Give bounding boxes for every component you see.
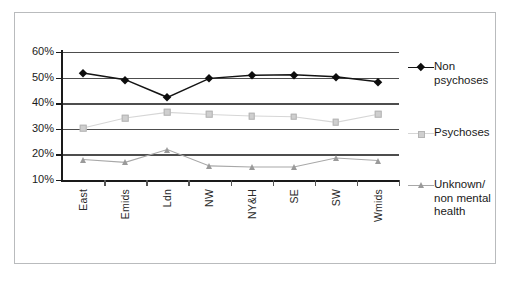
x-axis-tick-label-ny-h: NY&H <box>246 189 258 219</box>
data-point-triangle <box>80 157 86 163</box>
data-point-triangle <box>249 164 255 170</box>
x-axis-tick <box>273 180 274 186</box>
x-axis-tick-label-se: SE <box>288 189 300 203</box>
x-axis-tick-label-emids: Emids <box>119 189 131 219</box>
legend-label: Non psychoses <box>434 60 488 87</box>
x-axis-tick <box>357 180 358 186</box>
series-polylines <box>62 52 399 180</box>
y-axis-tick-label: 50% <box>2 71 54 83</box>
legend-item-non-psychoses[interactable]: Non psychoses <box>408 60 488 87</box>
plot-area <box>62 52 399 180</box>
x-axis-tick <box>231 180 232 186</box>
x-axis-tick-label-east: East <box>77 189 89 211</box>
x-axis-tick <box>315 180 316 186</box>
x-axis-tick-label-ldn: Ldn <box>161 189 173 207</box>
data-point-triangle <box>375 158 381 164</box>
chart-plot-wrapper: 60%50%40%30%20%10% EastEmidsLdnNWNY&HSES… <box>0 0 516 282</box>
data-point-square <box>80 125 87 132</box>
x-axis-tick-label-nw: NW <box>203 189 215 207</box>
y-axis-tick-label: 20% <box>2 147 54 159</box>
x-axis-tick <box>188 180 189 186</box>
legend-label: Unknown/ non mental health <box>434 178 491 219</box>
y-axis-tick-label: 30% <box>2 122 54 134</box>
data-point-square <box>122 115 129 122</box>
y-axis-tick-label: 60% <box>2 45 54 57</box>
legend-label: Psychoses <box>434 126 490 140</box>
data-point-triangle <box>206 163 212 169</box>
x-axis-tick <box>399 180 400 186</box>
data-point-square <box>206 111 213 118</box>
data-point-triangle <box>164 147 170 153</box>
data-point-triangle <box>333 155 339 161</box>
x-axis-tick <box>104 180 105 186</box>
legend-item-unknown-non-mental-health[interactable]: Unknown/ non mental health <box>408 178 491 219</box>
x-axis-tick-label-wmids: Wmids <box>372 189 384 222</box>
data-point-triangle <box>291 164 297 170</box>
data-point-square <box>290 113 297 120</box>
y-axis-tick-label: 40% <box>2 96 54 108</box>
legend-marker-diamond-icon <box>408 61 434 74</box>
data-point-square <box>333 119 340 126</box>
data-point-triangle <box>122 159 128 165</box>
x-axis-tick <box>146 180 147 186</box>
data-point-square <box>164 109 171 116</box>
legend-marker-triangle-icon <box>408 179 434 192</box>
legend-item-psychoses[interactable]: Psychoses <box>408 126 490 140</box>
y-axis-tick-label: 10% <box>2 173 54 185</box>
data-point-square <box>248 113 255 120</box>
x-axis-tick-label-sw: SW <box>330 189 342 206</box>
legend-marker-square-icon <box>408 127 434 140</box>
data-point-square <box>375 111 382 118</box>
